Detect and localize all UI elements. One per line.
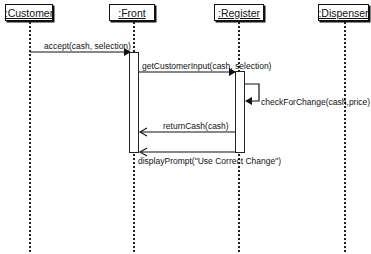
message-check-for-change: checkForChange(cash,price)	[261, 97, 370, 107]
message-accept: accept(cash, selection)	[44, 41, 131, 51]
filled-arrowhead-icon	[245, 97, 252, 105]
message-display-prompt: displayPrompt("Use Correct Change")	[138, 156, 281, 166]
message-return-cash: returnCash(cash)	[163, 121, 229, 131]
message-get-customer-input: getCustomerInput(cash, selection)	[142, 61, 271, 71]
